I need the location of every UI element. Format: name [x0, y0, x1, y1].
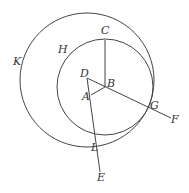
label-C: C — [101, 25, 109, 36]
segment-DF — [87, 78, 171, 118]
label-F: F — [171, 114, 179, 125]
diagram-canvas — [0, 0, 189, 193]
label-G: G — [150, 100, 159, 111]
label-A: A — [82, 91, 90, 102]
label-D: D — [80, 68, 89, 79]
segment-AB — [91, 87, 105, 95]
label-K: K — [13, 56, 21, 67]
label-E: E — [97, 172, 105, 183]
label-L: L — [91, 142, 98, 153]
label-B: B — [107, 78, 115, 89]
label-H: H — [58, 44, 68, 55]
geometry-diagram: CHKDBAGFLE — [0, 0, 189, 193]
